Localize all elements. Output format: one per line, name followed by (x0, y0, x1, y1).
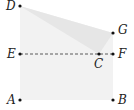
label-c: C (94, 57, 103, 71)
label-f: F (117, 47, 127, 61)
folding-diagram: D G E C F A B (0, 0, 134, 110)
label-d: D (5, 0, 16, 13)
point-f (111, 52, 114, 55)
point-b (111, 98, 114, 101)
label-a: A (6, 93, 16, 107)
point-a (18, 98, 21, 101)
point-d (18, 4, 21, 7)
point-g (111, 31, 114, 34)
label-b: B (117, 93, 127, 107)
point-c (97, 52, 100, 55)
label-e: E (6, 47, 16, 61)
label-g: G (118, 23, 128, 37)
point-e (18, 52, 21, 55)
